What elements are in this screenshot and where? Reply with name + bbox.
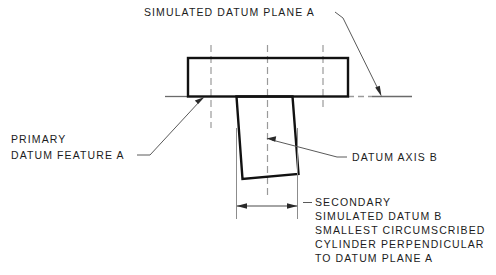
drawing-canvas: SIMULATED DATUM PLANE A PRIMARY DATUM FE…	[0, 0, 496, 275]
leader-line-datum-axis-b	[272, 140, 347, 157]
dimension-group	[237, 128, 298, 219]
label-primary-line1: PRIMARY	[11, 133, 66, 145]
label-datum-axis-b: DATUM AXIS B	[352, 151, 438, 163]
leader-primary-datum-feature	[137, 97, 205, 155]
dimension-arrowhead-left	[237, 203, 248, 209]
leader-simulated-datum-plane	[335, 12, 382, 97]
leader-datum-axis-b	[267, 136, 348, 157]
label-secondary-line-2: SMALLEST CIRCUMSCRIBED	[315, 224, 485, 236]
leader-arrowhead-primary-datum-feature	[195, 97, 205, 104]
label-secondary-line-1: SIMULATED DATUM B	[315, 210, 442, 222]
label-secondary-line-3: CYLINDER PERPENDICULAR	[315, 238, 484, 250]
leader-arrowhead-simulated-datum-plane	[375, 86, 381, 97]
label-primary-line2: DATUM FEATURE A	[11, 149, 125, 161]
centerlines-group	[211, 45, 323, 196]
leader-line-simulated-datum-plane	[335, 12, 380, 93]
label-simulated-datum-plane: SIMULATED DATUM PLANE A	[144, 6, 315, 18]
gdt-datum-diagram: SIMULATED DATUM PLANE A PRIMARY DATUM FE…	[0, 0, 496, 275]
leader-line-primary-datum-feature	[137, 101, 200, 155]
label-secondary-line-0: SECONDARY	[315, 196, 391, 208]
dimension-arrowhead-right	[287, 203, 298, 209]
label-secondary-line-4: TO DATUM PLANE A	[315, 252, 433, 264]
